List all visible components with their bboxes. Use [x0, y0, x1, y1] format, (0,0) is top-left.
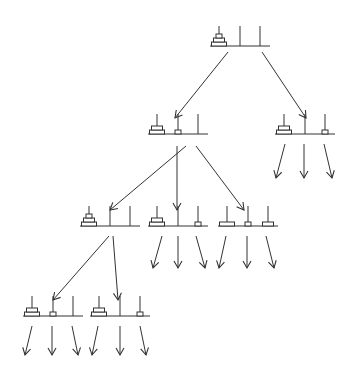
hanoi-state-n3 [80, 206, 140, 226]
disc-large [220, 222, 235, 226]
arrow-edge [262, 52, 306, 118]
arrow-edge [196, 236, 205, 268]
hanoi-tree-diagram [0, 0, 357, 380]
disc-small [175, 130, 181, 134]
disc-medium [279, 126, 290, 130]
arrow-edge [266, 236, 274, 268]
arrow-edge [110, 146, 186, 210]
disc-small [245, 222, 251, 226]
disc-medium [84, 218, 95, 222]
disc-small [322, 130, 328, 134]
edges-group [25, 52, 332, 355]
arrow-edge [276, 144, 285, 178]
disc-small [195, 222, 201, 226]
arrow-edge [140, 326, 146, 355]
hanoi-state-n2 [275, 114, 335, 134]
arrow-edge [92, 326, 98, 355]
hanoi-state-n1 [148, 114, 208, 134]
hanoi-state-root [210, 26, 270, 46]
disc-medium [214, 38, 225, 42]
disc-medium [263, 222, 274, 226]
arrow-edge [113, 236, 118, 300]
disc-medium [27, 308, 38, 312]
disc-medium [94, 308, 105, 312]
diagram-canvas [0, 0, 357, 380]
arrow-edge [72, 326, 78, 355]
arrow-edge [25, 326, 32, 355]
disc-large [277, 130, 292, 134]
disc-large [92, 312, 107, 316]
hanoi-state-n5 [218, 206, 278, 226]
arrow-edge [175, 52, 228, 118]
nodes-group [23, 26, 335, 316]
disc-large [25, 312, 40, 316]
arrow-edge [196, 146, 244, 210]
disc-medium [152, 218, 163, 222]
disc-small [86, 214, 92, 218]
hanoi-state-n4 [148, 206, 208, 226]
hanoi-state-n7 [90, 296, 150, 316]
disc-large [150, 222, 165, 226]
disc-small [137, 312, 143, 316]
disc-large [150, 130, 165, 134]
disc-large [82, 222, 97, 226]
disc-medium [152, 126, 163, 130]
arrow-edge [324, 144, 332, 178]
arrow-edge [53, 236, 109, 300]
arrow-edge [153, 236, 162, 268]
arrow-edge [219, 236, 226, 268]
disc-small [50, 312, 56, 316]
disc-small [216, 34, 222, 38]
hanoi-state-n6 [23, 296, 83, 316]
disc-large [212, 42, 227, 46]
